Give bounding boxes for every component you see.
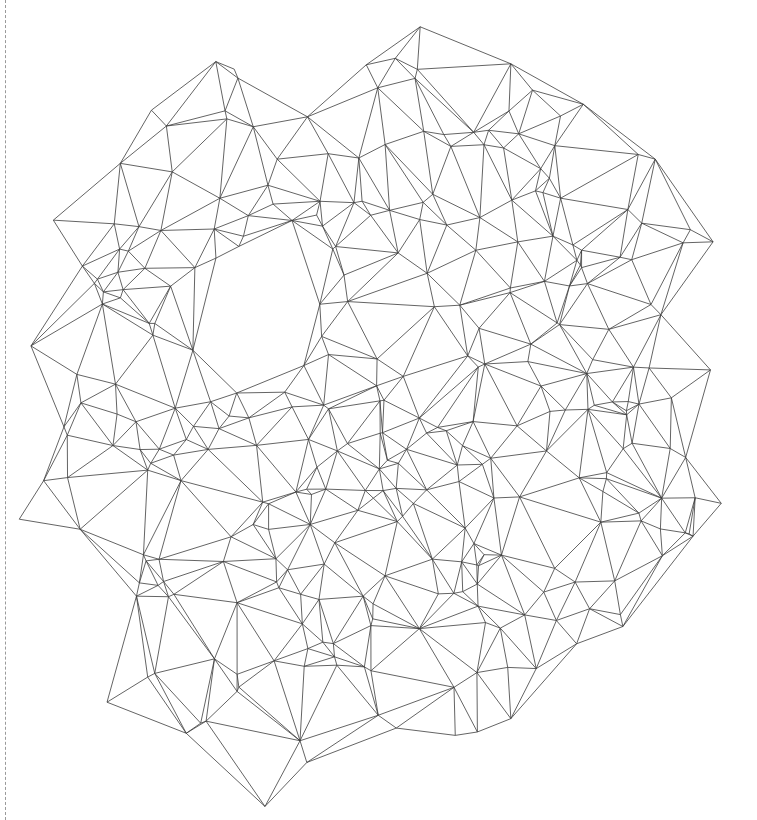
mesh-edge (269, 504, 311, 525)
mesh-edge (378, 78, 415, 87)
mesh-edge (307, 88, 377, 117)
mesh-edge (396, 687, 454, 728)
mesh-edge (216, 62, 225, 111)
mesh-edge (159, 559, 223, 561)
mesh-edge (243, 216, 248, 237)
mesh-edge (354, 203, 371, 216)
mesh-edge (396, 463, 398, 488)
mesh-edge (517, 426, 546, 451)
mesh-edge (279, 588, 303, 624)
mesh-edge (424, 131, 433, 194)
mesh-edge (229, 416, 249, 418)
mesh-edge (504, 134, 519, 148)
mesh-edge (671, 370, 710, 398)
mesh-edge (500, 615, 524, 628)
mesh-edge (489, 111, 509, 130)
mesh-edge (474, 111, 509, 132)
mesh-edge (301, 594, 319, 599)
mesh-edge (300, 715, 378, 740)
mesh-edge (324, 405, 329, 409)
mesh-edge (544, 592, 557, 620)
mesh-edge (485, 364, 541, 386)
mesh-edge (174, 594, 237, 602)
mesh-edge (396, 488, 426, 489)
mesh-edge (118, 272, 123, 289)
mesh-edge (328, 154, 354, 203)
mesh-edge (159, 481, 181, 560)
mesh-edge (136, 583, 139, 596)
mesh-edge (477, 673, 511, 719)
mesh-edge (607, 449, 623, 473)
mesh-edge (377, 386, 384, 400)
mesh-edge (227, 119, 253, 127)
mesh-edge (348, 302, 377, 359)
mesh-edge (383, 433, 407, 450)
mesh-edge (474, 544, 502, 556)
mesh-edge (77, 374, 116, 384)
mesh-edge (642, 159, 656, 223)
mesh-edge (427, 250, 476, 273)
mesh-edge (385, 145, 389, 211)
mesh-edge (308, 439, 316, 467)
mesh-edge (575, 522, 601, 582)
mesh-edge (478, 606, 485, 622)
mesh-edge (149, 286, 170, 323)
mesh-edge (590, 609, 623, 627)
mesh-edge (193, 426, 219, 428)
mesh-edge (603, 479, 607, 492)
mesh-edge (546, 451, 579, 478)
mesh-edge (257, 445, 296, 492)
mesh-edge (365, 490, 373, 498)
mesh-edge (308, 405, 323, 439)
mesh-edge (639, 513, 641, 521)
mesh-edge (419, 629, 454, 688)
mesh-edge (208, 445, 256, 449)
mesh-edge (474, 64, 511, 133)
mesh-edge (333, 247, 336, 249)
mesh-edge (336, 247, 399, 253)
mesh-edge (44, 427, 64, 481)
mesh-edge (517, 411, 550, 425)
mesh-edge (371, 629, 419, 671)
mesh-edge (512, 191, 536, 200)
mesh-edge (579, 473, 607, 478)
mesh-edge (145, 268, 171, 286)
mesh-edge (403, 503, 414, 516)
mesh-edge (164, 582, 174, 595)
mesh-edge (377, 386, 380, 401)
mesh-edge (348, 253, 398, 302)
mesh-edge (423, 202, 447, 225)
mesh-edge (335, 543, 363, 596)
mesh-edge (550, 410, 565, 411)
mesh-edge (310, 510, 358, 524)
mesh-edge (632, 260, 651, 305)
mesh-edge (171, 268, 195, 287)
mesh-edge (103, 272, 118, 292)
mesh-edge (423, 194, 433, 202)
mesh-edge (277, 117, 307, 159)
mesh-edge (420, 220, 427, 274)
mesh-edge (292, 220, 320, 304)
mesh-edge (158, 582, 163, 586)
mesh-edge (683, 242, 713, 243)
mesh-edge (485, 364, 517, 426)
mesh-edge (146, 559, 159, 561)
mesh-edge (508, 667, 536, 668)
mesh-edge (237, 588, 279, 603)
mesh-edge (44, 435, 68, 480)
mesh-edge (379, 433, 380, 469)
mesh-edge (310, 524, 324, 564)
mesh-edge (433, 194, 480, 217)
mesh-edge (419, 606, 478, 628)
mesh-edge (120, 298, 149, 323)
mesh-edge (371, 619, 373, 626)
mesh-edge (257, 439, 309, 445)
mesh-edge (510, 242, 517, 288)
mesh-edge (457, 464, 482, 465)
mesh-edge (628, 154, 638, 209)
mesh-edge (519, 116, 561, 134)
mesh-edge (237, 603, 302, 624)
mesh-edge (300, 665, 337, 741)
mesh-edge (143, 470, 147, 555)
mesh-edge (612, 402, 626, 411)
